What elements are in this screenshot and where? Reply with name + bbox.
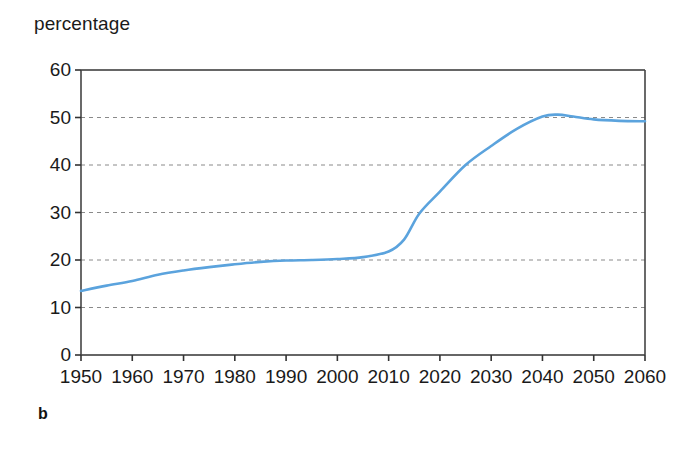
x-tick-label: 1970: [158, 367, 210, 386]
data-series: [81, 115, 645, 291]
x-tick-label: 2060: [619, 367, 671, 386]
y-tick-label: 60: [27, 60, 71, 79]
y-tick-label: 10: [27, 298, 71, 317]
y-tick-label: 0: [27, 345, 71, 364]
panel-label: b: [38, 404, 48, 424]
figure-panel: percentage 0102030405060 195019601970198…: [0, 0, 697, 455]
x-tick-label: 2050: [568, 367, 620, 386]
x-tick-label: 1990: [260, 367, 312, 386]
x-tick-label: 2040: [516, 367, 568, 386]
gridlines: [81, 118, 645, 308]
y-tick-label: 50: [27, 108, 71, 127]
x-tick-label: 1950: [55, 367, 107, 386]
y-tick-label: 30: [27, 203, 71, 222]
x-tick-label: 2010: [363, 367, 415, 386]
x-tick-label: 2030: [465, 367, 517, 386]
y-tick-label: 40: [27, 155, 71, 174]
x-tick-label: 2020: [414, 367, 466, 386]
y-tick-label: 20: [27, 250, 71, 269]
series-line-0: [81, 115, 645, 291]
x-tick-label: 1980: [209, 367, 261, 386]
x-tick-label: 1960: [106, 367, 158, 386]
x-tick-label: 2000: [311, 367, 363, 386]
